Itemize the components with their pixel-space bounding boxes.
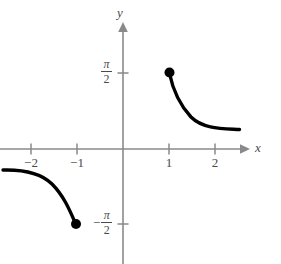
x-axis-label: x	[255, 141, 261, 154]
y-axis-label: y	[117, 6, 123, 19]
x-tick-label-minus-1: −1	[65, 156, 89, 169]
endpoint-dot-upper-right	[165, 68, 175, 78]
x-tick-label-2: 2	[205, 156, 225, 169]
x-tick-label-minus-2: −2	[19, 156, 43, 169]
y-tick-negative-pi-over-2-numerator: π	[102, 209, 112, 222]
plot-canvas	[0, 0, 281, 264]
x-axis-arrowhead	[240, 144, 250, 154]
curve-lower-left-branch	[3, 170, 76, 224]
y-axis-arrowhead	[118, 22, 128, 32]
endpoint-dot-lower-left	[71, 219, 81, 229]
y-tick-label-pi-over-2: π 2	[100, 58, 112, 85]
y-tick-negative-pi-over-2-fraction: π 2	[101, 209, 112, 236]
math-graph-figure: x y −2 −1 1 2 π 2 − π 2	[0, 0, 281, 264]
y-tick-label-negative-pi-over-2: − π 2	[93, 209, 112, 236]
y-tick-pi-over-2-numerator: π	[101, 58, 111, 71]
curve-upper-right-branch	[170, 74, 240, 130]
y-tick-pi-over-2-fraction: π 2	[101, 58, 112, 85]
y-tick-negative-pi-over-2-sign: −	[93, 216, 100, 230]
y-tick-pi-over-2-denominator: 2	[102, 72, 112, 85]
x-tick-label-1: 1	[159, 156, 179, 169]
y-tick-negative-pi-over-2-denominator: 2	[102, 223, 112, 236]
